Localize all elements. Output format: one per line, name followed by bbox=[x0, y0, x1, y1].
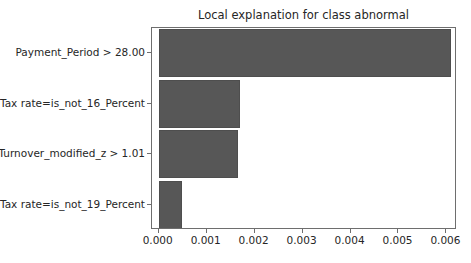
y-tick-mark bbox=[147, 153, 151, 154]
y-tick-label: Tax rate=is_not_16_Percent bbox=[0, 97, 145, 109]
x-tick-mark bbox=[302, 229, 303, 233]
x-tick-label: 0.003 bbox=[287, 234, 317, 246]
bar bbox=[159, 181, 182, 229]
x-tick-mark bbox=[350, 229, 351, 233]
x-tick-label: 0.006 bbox=[430, 234, 460, 246]
bar bbox=[159, 130, 238, 178]
y-tick-mark bbox=[147, 103, 151, 104]
x-tick-mark bbox=[158, 229, 159, 233]
x-tick-mark bbox=[254, 229, 255, 233]
x-tick-mark bbox=[397, 229, 398, 233]
x-tick-label: 0.004 bbox=[335, 234, 365, 246]
chart-figure: Local explanation for class abnormal Pay… bbox=[0, 0, 471, 263]
y-tick-label: Turnover_modified_z > 1.01 bbox=[0, 147, 145, 159]
x-tick-label: 0.005 bbox=[382, 234, 412, 246]
y-tick-label: Tax rate=is_not_19_Percent bbox=[0, 198, 145, 210]
plot-area bbox=[151, 27, 456, 229]
chart-title: Local explanation for class abnormal bbox=[151, 8, 456, 22]
y-tick-mark bbox=[147, 52, 151, 53]
x-tick-label: 0.000 bbox=[143, 234, 173, 246]
bar bbox=[159, 80, 241, 128]
bar bbox=[159, 29, 452, 77]
y-tick-mark bbox=[147, 204, 151, 205]
x-tick-label: 0.002 bbox=[239, 234, 269, 246]
x-tick-mark bbox=[206, 229, 207, 233]
y-tick-label: Payment_Period > 28.00 bbox=[16, 46, 146, 58]
x-tick-label: 0.001 bbox=[191, 234, 221, 246]
x-tick-mark bbox=[445, 229, 446, 233]
